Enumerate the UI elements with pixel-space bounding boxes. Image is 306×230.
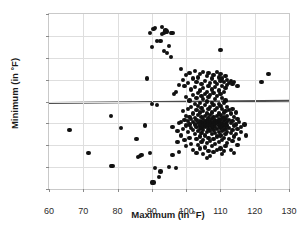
data-point <box>170 125 174 129</box>
data-point <box>244 133 248 137</box>
data-point <box>223 98 227 102</box>
y-axis-tick-mark <box>46 123 49 124</box>
data-point <box>175 140 179 144</box>
data-point <box>177 150 181 154</box>
data-point <box>194 96 198 100</box>
data-point <box>181 78 185 82</box>
y-axis-tick-mark <box>46 80 49 81</box>
data-point <box>232 151 236 155</box>
gridline-vertical <box>255 14 256 189</box>
data-point <box>167 165 171 169</box>
data-point <box>119 126 123 130</box>
data-point <box>242 122 246 126</box>
data-point <box>134 137 138 141</box>
data-point <box>150 102 154 106</box>
data-point <box>182 138 186 142</box>
data-point <box>211 73 215 77</box>
data-point <box>193 132 197 136</box>
data-point <box>206 71 210 75</box>
data-point <box>234 132 238 136</box>
data-point <box>170 153 174 157</box>
data-point <box>167 44 171 48</box>
y-axis-tick-mark <box>46 36 49 37</box>
data-point <box>203 79 207 83</box>
data-point <box>208 81 212 85</box>
y-axis-title: Minimum (in °F) <box>9 14 20 174</box>
data-point <box>150 45 154 49</box>
data-point <box>201 70 205 74</box>
y-axis-tick-mark <box>46 167 49 168</box>
data-point <box>86 151 90 155</box>
data-point <box>179 67 183 71</box>
gridline-horizontal <box>49 80 289 81</box>
data-point <box>155 103 159 107</box>
data-point <box>198 146 202 150</box>
data-point <box>186 81 190 85</box>
gridline-horizontal <box>49 123 289 124</box>
data-point <box>158 39 162 43</box>
data-point <box>186 130 190 134</box>
x-axis-tick-mark <box>83 189 84 192</box>
data-point <box>109 114 113 118</box>
gridline-vertical <box>83 14 84 189</box>
data-point <box>187 71 191 75</box>
data-point <box>235 84 239 88</box>
data-point <box>174 166 178 170</box>
y-axis-tick-mark <box>46 58 49 59</box>
data-point <box>205 99 209 103</box>
x-axis-tick-mark <box>289 189 290 192</box>
data-point <box>174 90 178 94</box>
data-point <box>193 69 197 73</box>
data-point <box>187 136 191 140</box>
x-axis-tick-mark <box>49 189 50 192</box>
data-point <box>67 128 71 132</box>
scatter-plot-figure: 806040200–20–40–60–806070809010011012013… <box>0 0 306 230</box>
x-axis-tick-mark <box>186 189 187 192</box>
data-point <box>110 164 114 168</box>
data-point <box>169 55 173 59</box>
data-point <box>153 166 157 170</box>
data-point <box>194 80 198 84</box>
data-point <box>184 144 188 148</box>
data-point <box>153 26 157 30</box>
data-point <box>177 83 181 87</box>
data-point <box>194 151 198 155</box>
data-point <box>259 80 263 84</box>
data-point <box>182 84 186 88</box>
y-axis-tick-mark <box>46 145 49 146</box>
data-point <box>181 109 185 113</box>
data-point <box>234 110 238 114</box>
gridline-horizontal <box>49 145 289 146</box>
data-point <box>266 72 270 76</box>
data-point <box>179 133 183 137</box>
data-point <box>239 130 243 134</box>
data-point <box>222 136 226 140</box>
data-point <box>145 76 149 80</box>
plot-area: 806040200–20–40–60–806070809010011012013… <box>48 13 290 190</box>
data-point <box>198 101 202 105</box>
data-point <box>158 169 162 173</box>
data-point <box>193 85 197 89</box>
data-point <box>157 175 161 179</box>
data-point <box>218 48 222 52</box>
y-axis-tick-mark <box>46 14 49 15</box>
y-axis-tick-mark <box>46 102 49 103</box>
data-point <box>206 149 210 153</box>
data-point <box>187 98 191 102</box>
data-point <box>143 123 147 127</box>
x-axis-title: Maximum (in °F) <box>48 209 288 220</box>
data-point <box>230 139 234 143</box>
data-point <box>139 153 143 157</box>
data-point <box>237 137 241 141</box>
data-point <box>235 143 239 147</box>
data-point <box>191 111 195 115</box>
x-axis-tick-mark <box>220 189 221 192</box>
data-point <box>222 149 226 153</box>
data-point <box>222 90 226 94</box>
data-point <box>151 180 155 184</box>
data-point <box>208 154 212 158</box>
data-point <box>148 31 152 35</box>
data-point <box>170 31 174 35</box>
x-axis-tick-mark <box>255 189 256 192</box>
gridline-vertical <box>118 14 119 189</box>
